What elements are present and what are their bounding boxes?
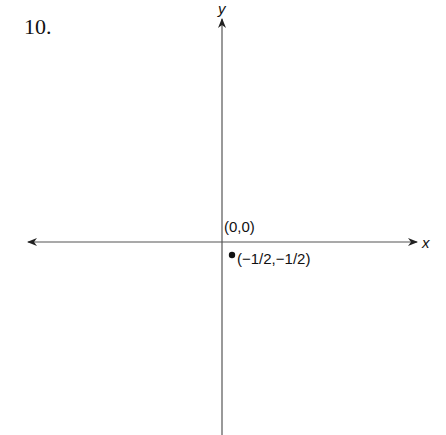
data-point-label: (−1/2,−1/2) [237, 250, 310, 267]
x-axis-label: x [421, 234, 430, 251]
coordinate-plane: x y (0,0) (−1/2,−1/2) [0, 0, 446, 435]
origin-label: (0,0) [224, 218, 255, 235]
y-axis-label: y [217, 0, 227, 17]
data-point [229, 252, 235, 258]
